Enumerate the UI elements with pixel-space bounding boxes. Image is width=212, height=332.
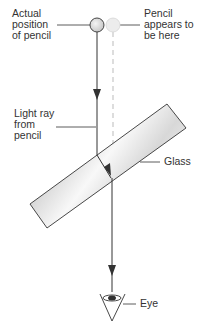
light-ray-label: Light ray from pencil bbox=[14, 108, 54, 141]
actual-pencil-circle bbox=[90, 18, 104, 32]
arrowhead-icon bbox=[93, 89, 101, 100]
apparent-position-label: Pencil appears to be here bbox=[144, 8, 194, 41]
glass-label: Glass bbox=[164, 156, 191, 167]
apparent-pencil-circle bbox=[106, 18, 120, 32]
actual-position-label: Actual position of pencil bbox=[12, 8, 51, 41]
eye-icon bbox=[100, 294, 125, 321]
arrowhead-icon bbox=[108, 265, 116, 276]
eye-label: Eye bbox=[140, 298, 158, 309]
